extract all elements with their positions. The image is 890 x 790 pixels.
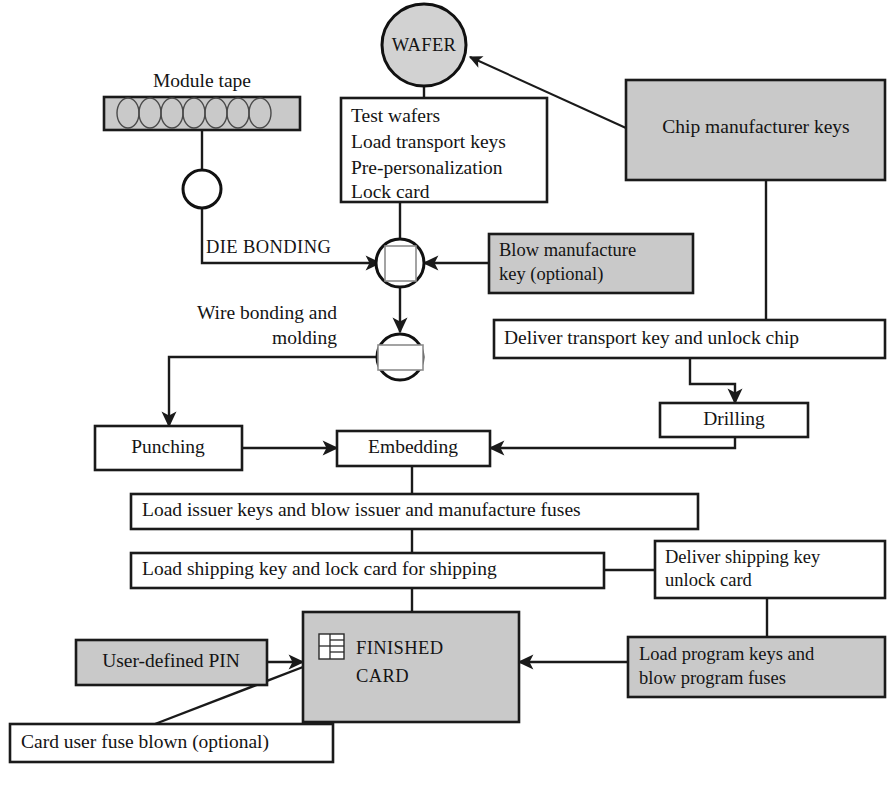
load-program-keys-line-2: blow program fuses (639, 668, 786, 688)
test-wafers-line-1: Test wafers (351, 105, 440, 126)
chip-contact-pad-icon (319, 634, 344, 659)
load-issuer-keys-label: Load issuer keys and blow issuer and man… (142, 499, 581, 520)
module-tape-caption: Module tape (153, 70, 251, 91)
test-wafers-line-2: Load transport keys (351, 131, 506, 152)
user-defined-pin-label: User-defined PIN (102, 650, 240, 671)
die-bonding-caption: DIE BONDING (206, 237, 331, 257)
wafer-label: WAFER (392, 35, 457, 55)
node-punching[interactable]: Punching (95, 426, 242, 470)
wire-bonding-caption-line-1: Wire bonding and (197, 302, 337, 323)
node-test-wafers[interactable]: Test wafers Load transport keys Pre-pers… (341, 98, 547, 202)
embedding-label: Embedding (368, 436, 458, 457)
card-user-fuse-blown-label: Card user fuse blown (optional) (21, 731, 269, 753)
node-embedding[interactable]: Embedding (337, 431, 490, 466)
node-deliver-transport-key[interactable]: Deliver transport key and unlock chip (494, 320, 885, 358)
test-wafers-line-4: Lock card (351, 181, 430, 202)
finished-card-line-1: FINISHED (356, 638, 443, 658)
wire-bonding-caption-line-2: molding (272, 327, 337, 348)
deliver-transport-key-label: Deliver transport key and unlock chip (504, 327, 799, 348)
edge-drilling-to-embedding (490, 437, 735, 448)
deliver-shipping-key-line-2: unlock card (665, 570, 753, 590)
node-drilling[interactable]: Drilling (660, 403, 808, 437)
punching-label: Punching (131, 436, 205, 457)
deliver-shipping-key-line-1: Deliver shipping key (665, 547, 821, 567)
node-finished-card[interactable]: FINISHED CARD (303, 612, 519, 722)
node-load-shipping-key[interactable]: Load shipping key and lock card for ship… (131, 553, 604, 588)
drilling-label: Drilling (703, 408, 765, 429)
node-blow-manufacture-key[interactable]: Blow manufacture key (optional) (489, 234, 693, 293)
node-chip-manufacturer-keys[interactable]: Chip manufacturer keys (626, 80, 885, 180)
node-die-bond-chip[interactable] (376, 239, 424, 287)
chip-manufacturer-keys-label: Chip manufacturer keys (662, 116, 849, 137)
node-load-program-keys[interactable]: Load program keys and blow program fuses (628, 637, 885, 697)
finished-card-line-2: CARD (356, 666, 409, 686)
node-card-user-fuse-blown[interactable]: Card user fuse blown (optional) (10, 724, 333, 762)
node-tape-reel[interactable] (183, 170, 221, 208)
node-module-tape[interactable] (104, 97, 300, 130)
node-user-defined-pin[interactable]: User-defined PIN (76, 640, 267, 685)
load-program-keys-line-1: Load program keys and (639, 644, 815, 664)
load-shipping-key-label: Load shipping key and lock card for ship… (142, 558, 497, 579)
test-wafers-line-3: Pre-personalization (351, 157, 503, 178)
diagram-canvas: WAFER Module tape Test wafers Lo (0, 0, 890, 790)
node-wafer[interactable]: WAFER (382, 4, 466, 86)
blow-manufacture-key-line-1: Blow manufacture (499, 240, 636, 260)
edge-wirebond-to-punching (169, 357, 378, 426)
node-load-issuer-keys[interactable]: Load issuer keys and blow issuer and man… (131, 494, 698, 529)
node-deliver-shipping-key[interactable]: Deliver shipping key unlock card (655, 541, 885, 598)
edge-delivertransport-to-drilling (690, 358, 735, 403)
wire-bonding-caption: Wire bonding and molding (197, 302, 337, 348)
node-wire-bond-chip[interactable] (377, 334, 423, 380)
blow-manufacture-key-line-2: key (optional) (499, 264, 603, 285)
